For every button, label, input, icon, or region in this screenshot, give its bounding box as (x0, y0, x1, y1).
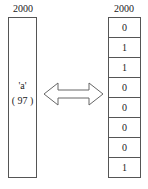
bit-memory-column: 0 1 1 0 0 0 0 1 (108, 17, 141, 178)
char-code: ( 97 ) (9, 95, 36, 107)
double-arrow-icon (40, 80, 108, 110)
bit-cell: 1 (109, 58, 140, 78)
left-address-label: 2000 (4, 3, 42, 15)
bit-cell: 1 (109, 38, 140, 58)
char-value: 'a' (9, 80, 36, 92)
right-address-label: 2000 (105, 3, 143, 15)
bit-cell: 0 (109, 18, 140, 38)
bit-cell: 1 (109, 158, 140, 177)
bit-cell: 0 (109, 118, 140, 138)
char-memory-box: 'a' ( 97 ) (8, 17, 37, 178)
bit-cell: 0 (109, 98, 140, 118)
bit-cell: 0 (109, 78, 140, 98)
bit-cell: 0 (109, 138, 140, 158)
